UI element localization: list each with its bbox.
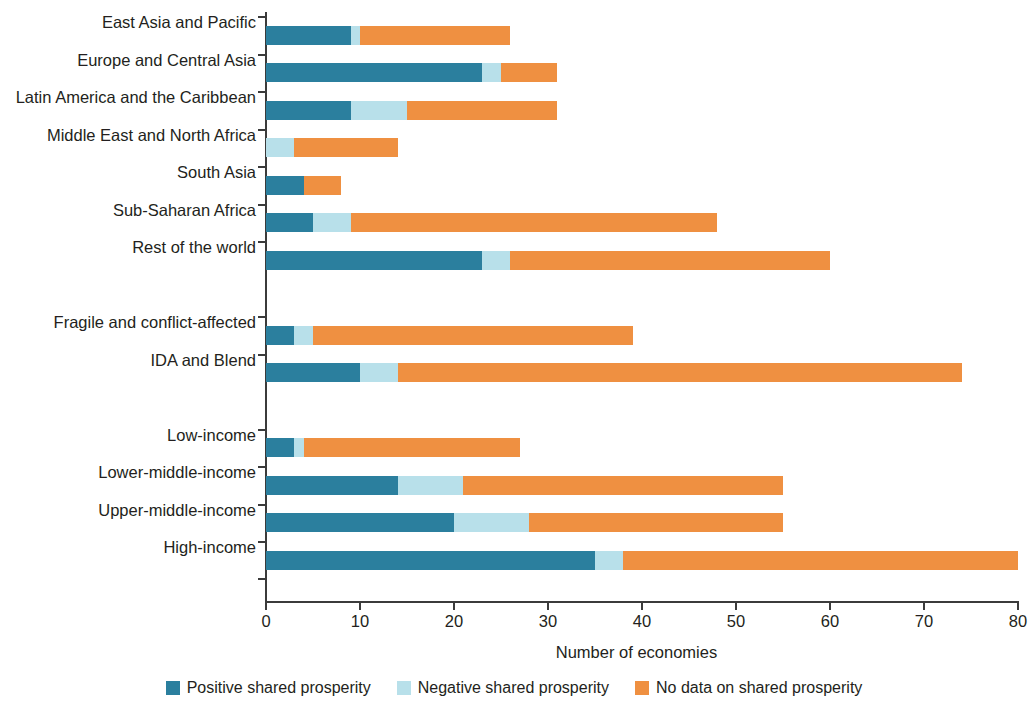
bar-segment [482,63,501,82]
bar-segment [266,513,454,532]
x-axis-tick-label: 20 [445,612,463,631]
bar-segment [313,326,633,345]
bar-segment [294,138,397,157]
bar-row [266,476,1018,495]
bar-segment [294,438,303,457]
bar-segment [454,513,529,532]
bar-segment [360,26,510,45]
y-axis-tick [258,204,266,206]
legend-item[interactable]: No data on shared prosperity [635,679,862,697]
bar-segment [360,363,398,382]
category-label: Latin America and the Caribbean [16,88,256,107]
category-label: Rest of the world [132,238,256,257]
bar-segment [304,176,342,195]
bar-segment [351,26,360,45]
stacked-bar-chart: East Asia and PacificEurope and Central … [0,0,1028,708]
category-label: IDA and Blend [151,351,257,370]
x-axis-tick-label: 40 [633,612,651,631]
bar-row [266,101,1018,120]
x-axis-tick-label: 80 [1009,612,1027,631]
bar-row [266,26,1018,45]
bar-row [266,513,1018,532]
category-label: Upper-middle-income [98,501,256,520]
bar-segment [266,138,294,157]
plot-area [266,12,1018,602]
bar-segment [304,438,520,457]
bar-row [266,251,1018,270]
bar-segment [398,476,464,495]
bar-segment [623,551,1018,570]
legend-label: Negative shared prosperity [418,679,609,697]
bar-segment [266,213,313,232]
bar-segment [351,101,407,120]
bar-segment [266,63,482,82]
legend-item[interactable]: Positive shared prosperity [166,679,371,697]
bar-segment [266,551,595,570]
bar-segment [266,476,398,495]
y-axis-tick [258,316,266,318]
x-axis-tick-label: 70 [915,612,933,631]
chart-legend: Positive shared prosperityNegative share… [0,679,1028,697]
legend-item[interactable]: Negative shared prosperity [397,679,609,697]
bar-segment [266,101,351,120]
bar-segment [463,476,783,495]
bar-segment [501,63,557,82]
category-label: Sub-Saharan Africa [113,201,256,220]
legend-swatch-icon [397,681,411,695]
bar-segment [510,251,830,270]
x-axis-tick [641,601,643,610]
bar-segment [266,363,360,382]
y-axis-tick [258,129,266,131]
x-axis-tick [453,601,455,610]
bar-segment [398,363,962,382]
x-axis-tick [829,601,831,610]
category-label: Middle East and North Africa [47,126,256,145]
bar-row [266,213,1018,232]
x-axis-tick [547,601,549,610]
bar-segment [266,438,294,457]
x-axis-tick-label: 30 [539,612,557,631]
legend-swatch-icon [166,681,180,695]
y-axis-tick [258,241,266,243]
x-axis-tick [359,601,361,610]
bar-segment [529,513,783,532]
x-axis-title-text: Number of economies [556,643,717,661]
x-axis-tick [735,601,737,610]
y-axis-tick [258,91,266,93]
legend-label: Positive shared prosperity [187,679,371,697]
y-axis-tick [258,578,266,580]
y-axis-tick [258,466,266,468]
bar-row [266,438,1018,457]
category-label: East Asia and Pacific [102,13,256,32]
bar-segment [266,326,294,345]
y-axis-tick [258,541,266,543]
bar-segment [266,26,351,45]
y-axis-tick [258,166,266,168]
bar-segment [351,213,718,232]
category-label: Lower-middle-income [98,463,256,482]
bar-segment [266,176,304,195]
legend-swatch-icon [635,681,649,695]
bar-segment [482,251,510,270]
x-axis-tick-label: 50 [727,612,745,631]
x-axis-tick-label: 0 [261,612,270,631]
y-axis-tick [258,504,266,506]
category-label: South Asia [177,163,256,182]
category-label: Low-income [167,426,256,445]
bar-segment [294,326,313,345]
y-axis-tick [258,16,266,18]
bar-row [266,63,1018,82]
bar-row [266,363,1018,382]
category-label: Fragile and conflict-affected [54,313,256,332]
bar-segment [313,213,351,232]
category-label: Europe and Central Asia [77,51,256,70]
y-axis-tick [258,429,266,431]
x-axis-tick [923,601,925,610]
bar-segment [407,101,557,120]
category-label: High-income [163,538,256,557]
y-axis-tick [258,354,266,356]
x-axis-tick [1017,601,1019,610]
x-axis-tick [265,601,267,610]
legend-label: No data on shared prosperity [656,679,862,697]
bar-row [266,176,1018,195]
